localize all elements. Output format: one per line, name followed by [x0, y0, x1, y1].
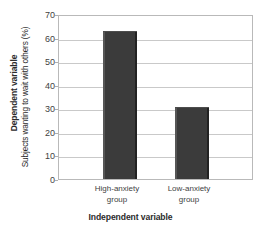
- y-tick-label-10: 10: [29, 152, 55, 161]
- bar-shadow-edge: [207, 107, 209, 179]
- x-tick-label-line1: Low-anxiety: [168, 184, 211, 193]
- x-tick-label-low-anxiety: Low-anxiety group: [144, 184, 234, 205]
- y-axis-title: Subjects wanting to wait with others (%): [20, 17, 30, 177]
- gridline-60: [59, 40, 252, 41]
- gridline-30: [59, 110, 252, 111]
- bar-highlight-edge: [175, 107, 177, 179]
- y-tick-label-0: 0: [29, 176, 55, 185]
- y-tick-label-20: 20: [29, 129, 55, 138]
- bar-high-anxiety-group: [103, 31, 137, 180]
- y-tick-label-50: 50: [29, 58, 55, 67]
- y-tick-mark-0: [55, 180, 58, 181]
- x-tick-label-line2: group: [144, 195, 234, 206]
- dependent-variable-axis-title: Dependent variable: [9, 33, 19, 153]
- bar-top-edge: [175, 107, 209, 108]
- y-tick-label-30: 30: [29, 105, 55, 114]
- gridline-10: [59, 157, 252, 158]
- bar-shadow-edge: [135, 31, 137, 180]
- bar-chart-figure: Dependent variable Subjects wanting to w…: [0, 0, 261, 231]
- bar-top-edge: [103, 31, 137, 32]
- plot-area: [58, 15, 253, 180]
- bar-low-anxiety-group: [175, 107, 209, 179]
- gridline-50: [59, 63, 252, 64]
- independent-variable-axis-title: Independent variable: [0, 212, 261, 222]
- y-tick-label-60: 60: [29, 35, 55, 44]
- gridline-20: [59, 134, 252, 135]
- gridline-40: [59, 87, 252, 88]
- y-tick-label-70: 70: [29, 11, 55, 20]
- x-tick-label-line1: High-anxiety: [95, 184, 139, 193]
- bar-highlight-edge: [103, 31, 105, 180]
- y-tick-label-40: 40: [29, 82, 55, 91]
